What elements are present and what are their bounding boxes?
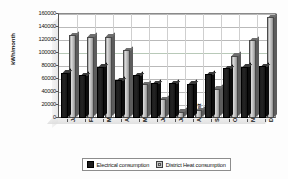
- y-tick-label: 140000: [22, 23, 56, 29]
- bar-side-face: [266, 62, 269, 116]
- bar-group: [203, 14, 221, 118]
- bar-electrical: [79, 75, 86, 118]
- bar-front-face: [187, 84, 194, 118]
- bar-side-face: [122, 77, 125, 117]
- y-tick-label: 0: [22, 114, 56, 120]
- bar-electrical: [241, 67, 248, 118]
- bar-front-face: [241, 67, 248, 118]
- y-tick-label: 160000: [22, 10, 56, 16]
- bar-front-face: [61, 73, 68, 119]
- bar-electrical: [61, 73, 68, 119]
- bar-side-face: [230, 64, 233, 116]
- bar-electrical: [169, 83, 176, 118]
- bar-electrical: [115, 80, 122, 118]
- bar-side-face: [140, 71, 143, 116]
- bar-group: [131, 14, 149, 118]
- legend-label: District Heat consumption: [166, 162, 226, 168]
- y-tick-label: 40000: [22, 88, 56, 94]
- bar-side-face: [212, 71, 215, 117]
- x-tick-mark: [193, 119, 194, 122]
- legend-item[interactable]: Electrical consumption: [87, 161, 149, 168]
- bar-front-face: [133, 75, 140, 118]
- y-tick-label: 20000: [22, 101, 56, 107]
- bar-side-face: [274, 14, 277, 117]
- bar-side-face: [176, 79, 179, 116]
- bar-group: [167, 14, 185, 118]
- bar-front-face: [79, 75, 86, 118]
- x-tick-mark: [229, 119, 230, 122]
- bar-side-face: [238, 52, 241, 117]
- bar-chart: kWh/month 160000140000120000100000800006…: [0, 0, 288, 179]
- legend-item[interactable]: District Heat consumption: [156, 161, 225, 168]
- bar-group: [95, 14, 113, 118]
- bar-group: [257, 14, 275, 118]
- bar-front-face: [205, 74, 212, 118]
- bar-electrical: [97, 67, 104, 118]
- x-tick-mark: [139, 119, 140, 122]
- bar-side-face: [158, 79, 161, 116]
- chart-legend: Electrical consumptionDistrict Heat cons…: [82, 158, 231, 171]
- bar-side-face: [194, 80, 197, 117]
- bar-electrical: [205, 74, 212, 118]
- x-tick-mark: [211, 119, 212, 122]
- x-axis-labels: JanuaryFebruaryMarchAprilMayJuneJulyAugu…: [58, 120, 276, 162]
- bar-electrical: [187, 84, 194, 118]
- bar-side-face: [130, 47, 133, 117]
- x-tick-mark: [247, 119, 248, 122]
- bar-group: [149, 14, 167, 118]
- bar-side-face: [248, 63, 251, 117]
- legend-swatch-elec: [87, 161, 94, 168]
- legend-label: Electrical consumption: [97, 162, 150, 168]
- bar-group: [59, 14, 77, 118]
- bar-side-face: [86, 71, 89, 116]
- y-tick-label: 80000: [22, 62, 56, 68]
- bar-side-face: [256, 36, 259, 116]
- bar-group: [239, 14, 257, 118]
- bar-side-face: [104, 63, 107, 117]
- x-tick-mark: [85, 119, 86, 122]
- bar-side-face: [148, 80, 151, 116]
- x-tick-mark: [103, 119, 104, 122]
- bar-front-face: [151, 83, 158, 118]
- bar-group: [185, 14, 203, 118]
- legend-swatch-heat: [156, 161, 163, 168]
- bar-group: [77, 14, 95, 118]
- bar-side-face: [68, 69, 71, 117]
- bar-front-face: [115, 80, 122, 118]
- bar-side-face: [220, 85, 223, 117]
- x-tick-mark: [157, 119, 158, 122]
- bar-side-face: [94, 33, 97, 117]
- y-axis-ticks: 1600001400001200001000008000060000400002…: [18, 13, 56, 118]
- bar-front-face: [169, 83, 176, 118]
- bar-front-face: [97, 67, 104, 118]
- bar-electrical: [223, 68, 230, 118]
- bars-layer: [59, 14, 275, 118]
- bar-side-face: [76, 32, 79, 117]
- bar-side-face: [112, 33, 115, 117]
- x-tick-mark: [121, 119, 122, 122]
- bar-front-face: [259, 66, 266, 118]
- y-tick-label: 120000: [22, 36, 56, 42]
- bar-electrical: [133, 75, 140, 118]
- y-tick-label: 100000: [22, 49, 56, 55]
- bar-group: [113, 14, 131, 118]
- x-tick-mark: [175, 119, 176, 122]
- bar-electrical: [151, 83, 158, 118]
- x-tick-mark: [67, 119, 68, 122]
- x-tick-mark: [265, 119, 266, 122]
- bar-front-face: [223, 68, 230, 118]
- bar-group: [221, 14, 239, 118]
- bar-electrical: [259, 66, 266, 118]
- y-tick-label: 60000: [22, 75, 56, 81]
